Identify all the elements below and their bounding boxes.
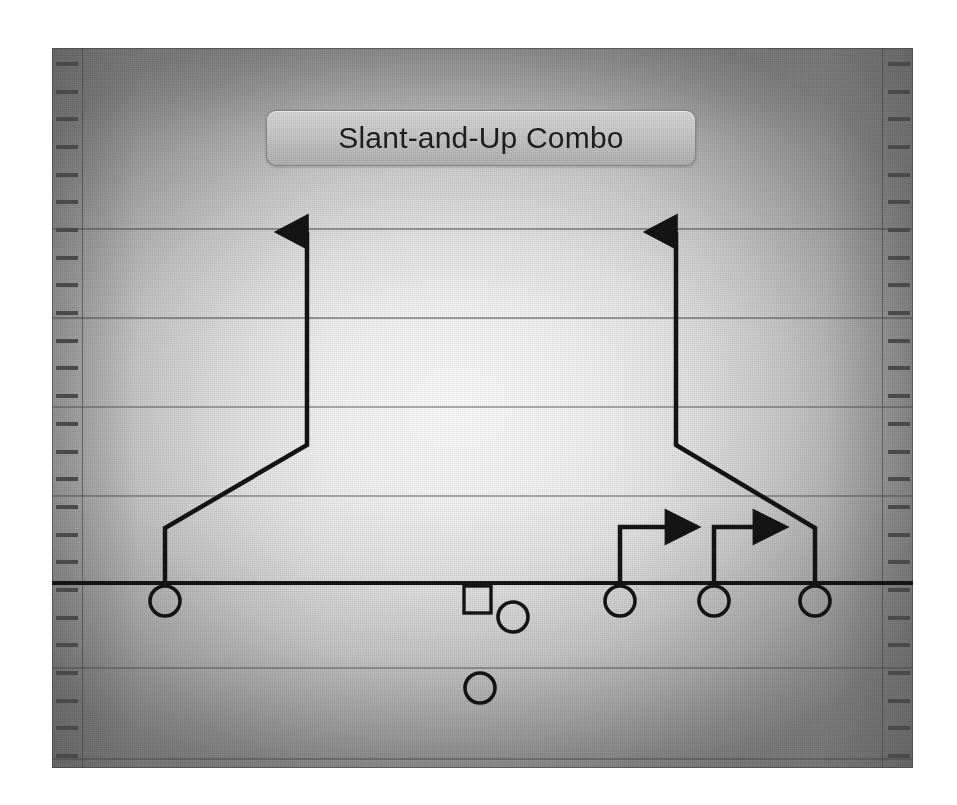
route-slant-and-up-right xyxy=(676,232,815,586)
player-split-end-right xyxy=(800,586,830,616)
player-split-end-left xyxy=(150,586,180,616)
route-slant-and-up-left xyxy=(165,232,307,586)
route-out-middle-right xyxy=(714,527,785,586)
play-title: Slant-and-Up Combo xyxy=(338,121,623,155)
play-title-plate: Slant-and-Up Combo xyxy=(266,110,696,166)
play-diagram-page: Slant-and-Up Combo xyxy=(0,0,957,805)
player-quarterback xyxy=(498,602,528,632)
player-center xyxy=(464,586,491,613)
player-middle-receiver-right xyxy=(699,586,729,616)
player-inside-receiver-right xyxy=(605,586,635,616)
route-out-inside-right xyxy=(620,527,697,586)
player-running-back xyxy=(465,673,495,703)
